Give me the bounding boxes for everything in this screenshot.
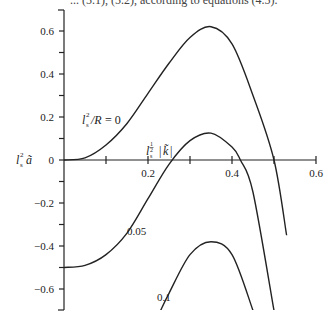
y-tick-label: 0.6 [40, 25, 54, 37]
y-tick-label: −0.2 [34, 197, 54, 209]
svg-text:s: s [150, 153, 153, 159]
svg-text:s: s [86, 121, 89, 129]
svg-text:s: s [20, 161, 23, 169]
svg-text:ã: ã [26, 153, 32, 167]
y-tick-label: −0.4 [34, 240, 54, 252]
y-tick-label: 0.4 [40, 68, 54, 80]
svg-text:2: 2 [20, 151, 24, 159]
curve-series-0 [64, 27, 287, 236]
x-tick-label: 0.4 [225, 167, 239, 179]
svg-text:/R: /R [90, 113, 102, 127]
svg-text:|: | [159, 144, 161, 158]
svg-text:= 0: = 0 [105, 113, 121, 127]
svg-text:|: | [170, 144, 172, 158]
svg-text:k̃: k̃ [163, 144, 169, 158]
x-tick-label: 0.6 [309, 167, 323, 179]
curve-series-2 [161, 242, 253, 311]
curve-label-0: l 2 s /R = 0 [82, 111, 121, 129]
curve-label-2: 0.1 [157, 291, 171, 303]
svg-text:2: 2 [86, 111, 90, 119]
x-axis-label: l 1 2 s | k̃ | [146, 141, 172, 159]
y-tick-label: −0.6 [34, 283, 54, 295]
y-tick-label: 0.2 [40, 111, 54, 123]
y-axis-label: l 2 s ã [16, 151, 32, 169]
curve-label-1: 0.05 [127, 225, 147, 237]
chart-plot: 0.60.40.20−0.2−0.4−0.6 0.20.40.6 l 2 s ã… [0, 0, 336, 325]
x-tick-label: 0.2 [141, 167, 155, 179]
figure-caption: ... (5.1), (5.2), according to equations… [70, 0, 278, 8]
y-tick-label: 0 [49, 154, 55, 166]
